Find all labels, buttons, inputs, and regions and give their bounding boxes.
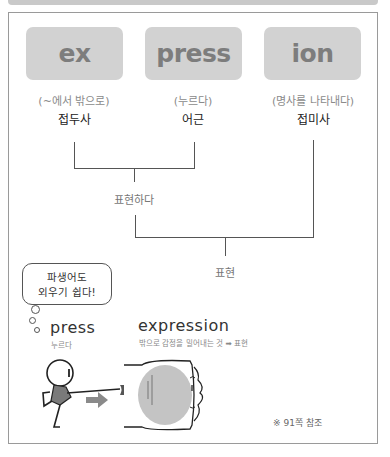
suffix-role: 접미사 (248, 110, 378, 127)
prefix-box: ex (26, 27, 123, 80)
intermediate-label: 표현하다 (104, 191, 164, 207)
root-role: 어근 (128, 110, 258, 127)
root-meaning: (누르다) (128, 92, 258, 108)
bubble-line-1: 파생어도 (23, 270, 111, 285)
bubble-dot (34, 327, 40, 333)
prefix-role: 접두사 (9, 110, 139, 127)
connector-line (135, 215, 136, 238)
suffix-meaning: (명사를 나타내다) (248, 92, 378, 108)
root-box: press (145, 27, 242, 80)
connector-line (313, 140, 314, 238)
connector-line (134, 168, 135, 182)
prefix-meaning: (~에서 밖으로) (9, 92, 139, 108)
bubble-dot (31, 305, 40, 314)
thought-bubble: 파생어도 외우기 쉽다! (22, 263, 112, 305)
result-label: 표현 (205, 264, 245, 280)
base-word-gloss: 누르다 (51, 339, 72, 350)
bubble-line-2: 외우기 쉽다! (23, 285, 111, 300)
prefix-word: ex (58, 39, 90, 68)
header-bar (8, 0, 378, 5)
connector-line (225, 237, 226, 256)
page-reference-note: ※ 91쪽 참조 (273, 416, 322, 429)
derived-word-gloss: 밖으로 감정을 밀어내는 것 ➡ 표현 (139, 337, 248, 348)
derived-word: expression (138, 316, 229, 335)
pressing-illustration (40, 355, 240, 450)
connector-line (74, 142, 75, 169)
suffix-box: ion (264, 27, 361, 80)
bubble-dot (29, 317, 36, 324)
suffix-word: ion (291, 39, 333, 68)
base-word: press (50, 318, 95, 337)
root-word: press (156, 39, 230, 68)
connector-line (194, 142, 195, 169)
push-arrow-icon (86, 392, 108, 408)
